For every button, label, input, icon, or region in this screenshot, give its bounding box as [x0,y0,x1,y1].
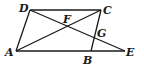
label-c: C [103,4,112,17]
geometry-diagram: D C F G A B E [0,0,144,70]
label-a: A [4,46,14,59]
label-b: B [82,54,92,67]
label-d: D [18,2,29,15]
label-e: E [125,46,135,59]
segment-ac [16,10,101,51]
label-f: F [62,13,72,26]
label-g: G [97,27,106,40]
